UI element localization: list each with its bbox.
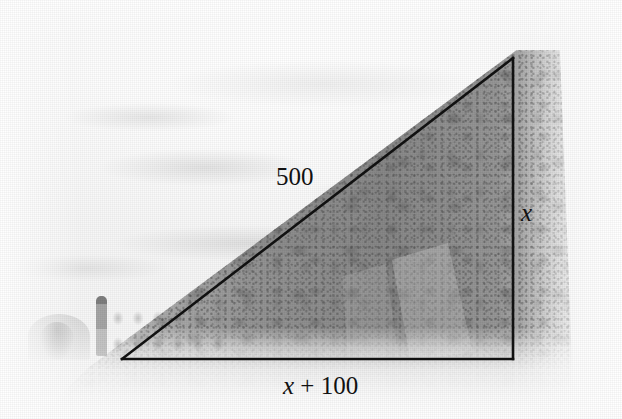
geometry-figure: 500 x x + 100 xyxy=(0,0,622,419)
hypotenuse-label: 500 xyxy=(276,164,314,189)
base-label-expression: + 100 xyxy=(294,372,358,399)
base-label-variable: x xyxy=(283,372,294,399)
vertical-side-label: x xyxy=(521,200,532,225)
hypotenuse-label-text: 500 xyxy=(276,163,314,190)
base-side-label: x + 100 xyxy=(283,373,358,398)
hypotenuse-line xyxy=(122,58,513,359)
vertical-label-variable: x xyxy=(521,199,532,226)
